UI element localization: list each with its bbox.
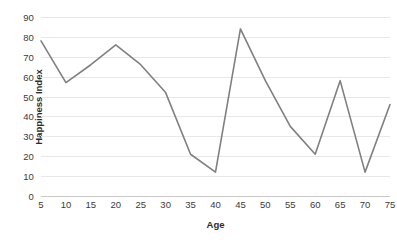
x-axis-tick-label: 50	[260, 199, 271, 210]
y-axis-tick-label: 10	[23, 171, 34, 182]
y-axis-tick-label: 40	[23, 111, 34, 122]
x-axis-tick-label: 15	[86, 199, 97, 210]
x-axis-tick-label: 75	[385, 199, 396, 210]
y-axis-tick-label: 0	[29, 191, 34, 202]
x-axis-tick-label: 25	[135, 199, 146, 210]
x-axis-tick-label: 65	[335, 199, 346, 210]
line-chart: Happiness Index 0102030405060708090 5101…	[0, 0, 397, 245]
x-axis-tick-label: 5	[38, 199, 43, 210]
plot-area	[41, 17, 390, 196]
y-axis-tick-label: 50	[23, 91, 34, 102]
y-axis-tick-label: 70	[23, 51, 34, 62]
x-axis-tick-label: 70	[360, 199, 371, 210]
x-axis-tick-labels: 51015202530354045505560657075	[41, 199, 390, 215]
y-axis-tick-label: 60	[23, 71, 34, 82]
x-axis-tick-label: 45	[235, 199, 246, 210]
x-axis-tick-label: 55	[285, 199, 296, 210]
y-axis-tick-label: 20	[23, 151, 34, 162]
x-axis-tick-label: 20	[110, 199, 121, 210]
x-axis-tick-label: 10	[61, 199, 72, 210]
x-axis-tick-label: 40	[210, 199, 221, 210]
y-axis-tick-label: 80	[23, 31, 34, 42]
y-axis-tick-label: 30	[23, 131, 34, 142]
y-axis-tick-labels: 0102030405060708090	[0, 0, 38, 245]
series-line-happiness-index	[41, 17, 390, 196]
x-axis-tick-label: 30	[160, 199, 171, 210]
x-axis-tick-label: 60	[310, 199, 321, 210]
x-axis-line	[41, 196, 390, 197]
y-axis-tick-label: 90	[23, 12, 34, 23]
x-axis-tick-label: 35	[185, 199, 196, 210]
x-axis-title: Age	[41, 219, 390, 230]
series-polyline	[41, 29, 390, 172]
